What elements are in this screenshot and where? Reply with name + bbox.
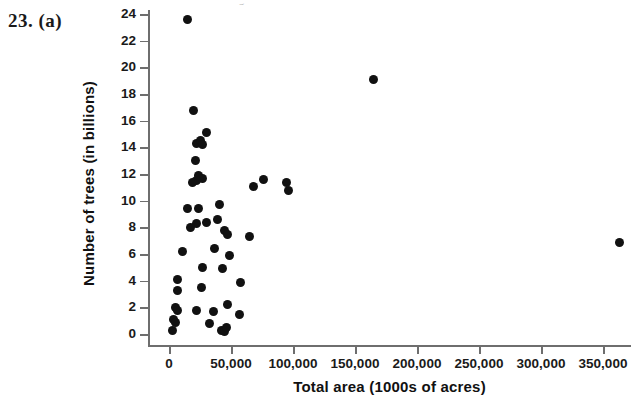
data-point [186,223,195,232]
data-point [194,204,203,213]
data-point [183,204,192,213]
x-tick-mark [355,346,357,354]
y-tick-mark [140,121,148,123]
y-tick-mark [140,14,148,16]
data-point [202,218,211,227]
y-tick-label: 2 [98,299,136,314]
data-point [210,244,219,253]
y-tick-label: 18 [98,86,136,101]
data-point [215,200,224,209]
x-axis-title: Total area (1000s of acres) [148,378,631,395]
y-tick-label: 24 [98,6,136,21]
data-point [369,75,378,84]
x-tick-mark [417,346,419,354]
y-tick-mark [140,281,148,283]
data-point [249,182,258,191]
data-point [223,230,232,239]
data-point [209,307,218,316]
x-tick-label: 350,000 [579,356,628,371]
x-tick-mark [231,346,233,354]
y-tick-mark [140,254,148,256]
y-tick-mark [140,41,148,43]
data-point [615,238,624,247]
x-tick-mark [479,346,481,354]
scatter-chart: 024681012141618202224 050,000100,000150,… [0,0,639,408]
y-tick-label: 22 [98,33,136,48]
data-point [191,156,200,165]
y-tick-mark [140,147,148,149]
x-tick-mark [293,346,295,354]
data-point [284,186,293,195]
data-point [188,178,197,187]
data-point [225,251,234,260]
y-tick-mark [140,307,148,309]
x-tick-mark [169,346,171,354]
data-point [173,286,182,295]
data-point [168,326,177,335]
y-tick-label: 6 [98,246,136,261]
data-point [192,306,201,315]
y-tick-label: 10 [98,193,136,208]
data-point [259,175,268,184]
x-tick-mark [603,346,605,354]
data-point [183,15,192,24]
x-tick-label: 0 [165,356,173,371]
x-tick-label: 150,000 [331,356,380,371]
y-tick-label: 4 [98,273,136,288]
x-tick-label: 50,000 [210,356,251,371]
y-tick-mark [140,67,148,69]
data-point [173,275,182,284]
x-tick-mark [541,346,543,354]
data-point [245,232,254,241]
y-tick-label: 8 [98,219,136,234]
data-point [198,263,207,272]
data-point [198,140,207,149]
y-axis-title: Number of trees (in billions) [80,34,97,334]
data-point [178,247,187,256]
data-point [223,300,232,309]
plot-area [148,10,631,346]
data-point [218,264,227,273]
y-tick-label: 16 [98,113,136,128]
y-tick-mark [140,174,148,176]
y-tick-label: 0 [98,326,136,341]
x-tick-label: 300,000 [517,356,566,371]
x-tick-label: 250,000 [455,356,504,371]
data-point [197,283,206,292]
data-point [213,215,222,224]
data-point [222,323,231,332]
y-tick-mark [140,334,148,336]
data-point [173,306,182,315]
y-tick-label: 14 [98,139,136,154]
data-point [205,319,214,328]
page-canvas: g 23. (a) 024681012141618202224 050,0001… [0,0,639,408]
data-point [235,310,244,319]
x-tick-label: 100,000 [269,356,318,371]
data-point [236,278,245,287]
y-tick-mark [140,201,148,203]
data-point [189,106,198,115]
x-tick-label: 200,000 [393,356,442,371]
y-tick-mark [140,227,148,229]
y-tick-mark [140,94,148,96]
y-tick-label: 12 [98,166,136,181]
y-tick-label: 20 [98,59,136,74]
